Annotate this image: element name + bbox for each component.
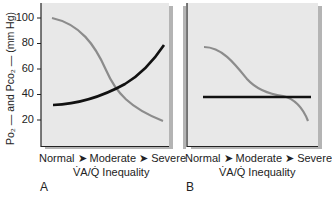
panel-a-x-categories: Normal ➤ Moderate ➤ Severe bbox=[39, 152, 186, 165]
y-tick-label: 40 bbox=[8, 87, 34, 99]
panel-a-background bbox=[41, 3, 169, 146]
panel-a-x-axis-title: V̇A/Q̇ Inequality bbox=[73, 166, 149, 178]
panel-b-plot bbox=[183, 3, 322, 149]
y-tick-label: 20 bbox=[8, 113, 34, 125]
panel-a-label: A bbox=[40, 180, 48, 194]
panel-b-background bbox=[187, 3, 318, 146]
panel-b-x-categories: Normal ➤ Moderate ➤ Severe bbox=[185, 152, 332, 165]
panel-a-right-shadow-strip bbox=[183, 6, 186, 149]
panel-b-label: B bbox=[186, 180, 194, 194]
panel-a-plot bbox=[37, 3, 173, 149]
panel-b-x-axis-title: V̇A/Q̇ Inequality bbox=[219, 166, 295, 178]
y-tick-label: 60 bbox=[8, 62, 34, 74]
y-tick-label: 80 bbox=[8, 36, 34, 48]
y-axis-title: Po₂ — and Pco₂ — (mm Hg) bbox=[4, 15, 18, 145]
y-tick-label: 100 bbox=[8, 11, 34, 23]
